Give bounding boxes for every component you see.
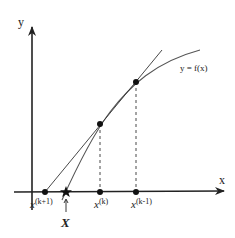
secant-method-diagram: y x y = f(x) x(k+1) X x(k) [0,0,235,238]
label-xk-plus-1: x(k+1) [29,197,53,210]
y-axis-label: y [18,15,24,29]
root-star-icon [60,186,72,197]
x-axis-label: x [219,173,225,187]
label-xk: x(k) [93,197,109,210]
label-root: X [60,215,70,230]
secant-line [45,50,162,192]
curve-point-xk [97,121,103,127]
axis-point-xk-plus-1 [42,189,48,195]
label-xk-minus-1: x(k-1) [130,197,152,210]
axis-point-xk [97,189,103,195]
curve-label: y = f(x) [180,63,208,73]
axis-point-xk-minus-1 [133,189,139,195]
curve-point-xk-minus-1 [133,79,139,85]
